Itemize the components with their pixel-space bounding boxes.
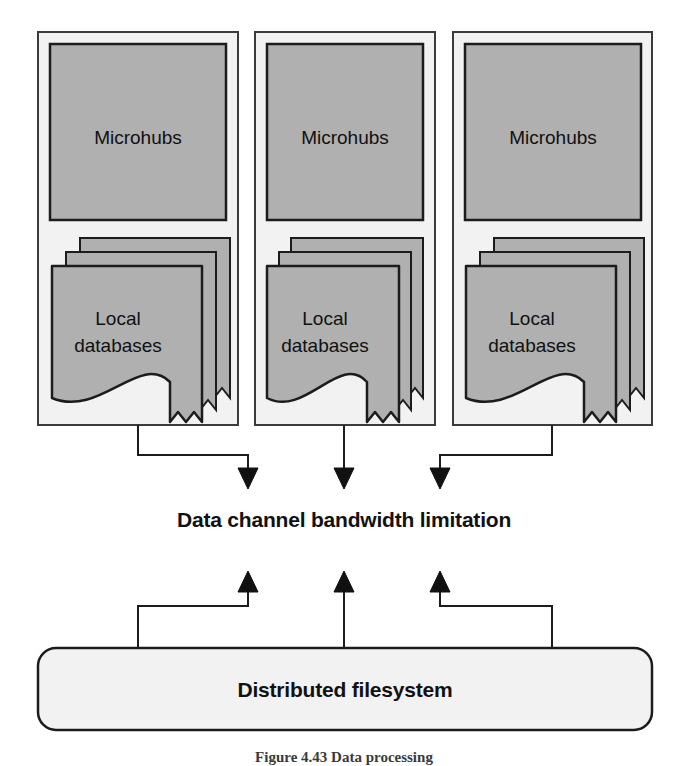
distributed-filesystem-label: Distributed filesystem — [238, 678, 453, 701]
figure-caption: Figure 4.43 Data processing — [255, 749, 433, 765]
column-3-databases-label-line1: Local — [509, 308, 554, 329]
column-2-databases-label-line2: databases — [281, 335, 369, 356]
column-3-databases-label-line2: databases — [488, 335, 576, 356]
column-2: Microhubs Local databases — [255, 32, 435, 425]
column-2-databases-label-line1: Local — [302, 308, 347, 329]
column-1: Microhubs Local databases — [38, 32, 238, 425]
column-3: Microhubs Local databases — [453, 32, 652, 425]
column-1-databases-label-line2: databases — [74, 335, 162, 356]
data-processing-diagram: Microhubs Local databases Microhubs Loca… — [0, 0, 688, 766]
figure-container: Microhubs Local databases Microhubs Loca… — [0, 0, 688, 766]
column-1-microhubs-label: Microhubs — [94, 127, 182, 148]
data-channel-label: Data channel bandwidth limitation — [177, 508, 511, 531]
column-2-microhubs-label: Microhubs — [301, 127, 389, 148]
column-1-databases-label-line1: Local — [95, 308, 140, 329]
column-3-microhubs-label: Microhubs — [509, 127, 597, 148]
distributed-filesystem-node: Distributed filesystem — [38, 648, 652, 730]
